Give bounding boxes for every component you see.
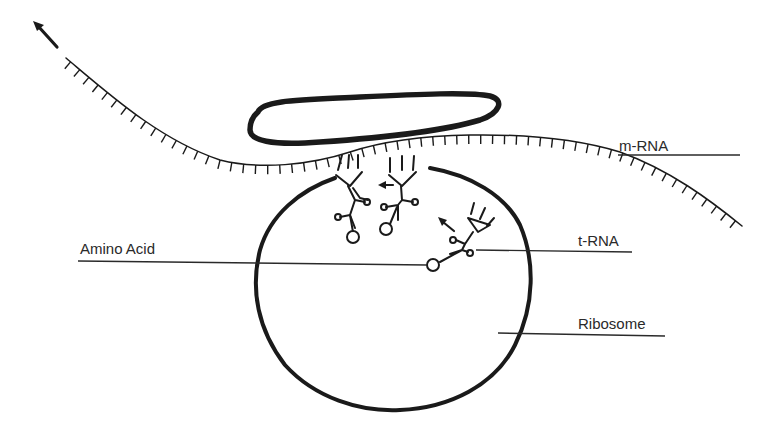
codon-tick bbox=[575, 142, 577, 151]
ribosome-label: Ribosome bbox=[578, 315, 646, 332]
trna-2 bbox=[380, 156, 418, 235]
codon-tick bbox=[151, 128, 156, 136]
codon-tick bbox=[682, 186, 687, 194]
trna-3 bbox=[427, 203, 494, 271]
ribosome-leader-line bbox=[498, 333, 665, 336]
codon-tick bbox=[183, 146, 187, 154]
mrna-label: m-RNA bbox=[619, 137, 668, 154]
codon-tick bbox=[172, 141, 176, 149]
codon-tick bbox=[111, 100, 117, 107]
codon-tick bbox=[218, 160, 220, 169]
codon-tick bbox=[641, 162, 645, 170]
codon-tick bbox=[304, 163, 305, 172]
codon-tick bbox=[243, 164, 244, 173]
codon-tick bbox=[327, 158, 329, 167]
codon-tick bbox=[65, 62, 71, 69]
codon-tick bbox=[631, 158, 635, 166]
codon-tick bbox=[652, 168, 656, 176]
codon-tick bbox=[397, 141, 398, 150]
codon-tick bbox=[141, 122, 146, 129]
codon-tick bbox=[552, 139, 553, 148]
codon-tick bbox=[528, 136, 529, 145]
codon-tick bbox=[540, 137, 541, 146]
codon-tick bbox=[692, 192, 697, 200]
codon-tick bbox=[121, 108, 126, 115]
codon-tick bbox=[563, 140, 564, 149]
codon-tick bbox=[421, 138, 422, 147]
codon-tick bbox=[230, 163, 232, 172]
codon-tick bbox=[711, 206, 716, 213]
trna-label: t-RNA bbox=[578, 232, 619, 249]
codon-tick bbox=[280, 165, 281, 174]
codon-tick bbox=[385, 143, 387, 152]
amino-acid-label: Amino Acid bbox=[80, 240, 155, 257]
ribosome-body bbox=[256, 168, 531, 410]
codon-tick bbox=[730, 221, 736, 228]
exit-arrow-icon bbox=[438, 217, 454, 231]
codon-tick bbox=[662, 173, 666, 181]
codon-tick bbox=[672, 179, 677, 187]
codon-tick bbox=[721, 213, 727, 220]
direction-arrow-icon bbox=[33, 21, 57, 47]
codon-tick bbox=[362, 148, 364, 157]
trna-1 bbox=[335, 155, 370, 243]
ribosome-diagram: m-RNA t-RNA Amino Acid Ribosome bbox=[0, 0, 773, 429]
codon-tick bbox=[586, 144, 588, 153]
codon-tick bbox=[350, 152, 353, 161]
shift-arrow-icon bbox=[378, 181, 393, 189]
codon-tick bbox=[161, 135, 166, 143]
codon-tick bbox=[83, 77, 89, 84]
codon-tick bbox=[194, 151, 198, 159]
amino-acid-leader-line bbox=[78, 261, 427, 265]
codon-tick bbox=[433, 137, 434, 146]
codon-tick bbox=[609, 150, 611, 159]
codon-tick bbox=[373, 146, 375, 155]
codon-tick bbox=[92, 85, 98, 92]
codon-tick bbox=[409, 139, 410, 148]
codon-tick bbox=[702, 199, 707, 206]
trna-leader-line bbox=[476, 250, 632, 252]
codon-tick bbox=[598, 147, 600, 156]
codon-tick bbox=[74, 70, 80, 77]
codon-tick bbox=[102, 93, 108, 100]
codon-tick bbox=[445, 136, 446, 145]
codon-tick bbox=[131, 115, 136, 122]
codon-tick bbox=[206, 156, 209, 164]
codon-tick bbox=[292, 164, 293, 173]
codon-tick bbox=[315, 161, 317, 170]
